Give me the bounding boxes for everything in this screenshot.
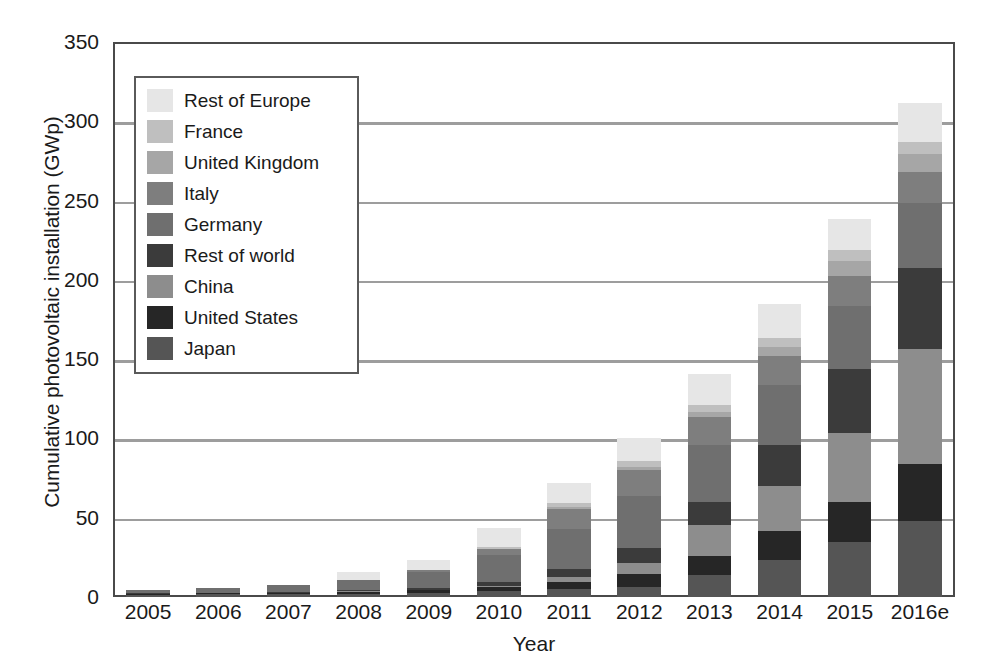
x-axis-tick-label: 2005 <box>125 600 172 624</box>
legend-swatch-icon <box>147 306 173 329</box>
legend-item-label: China <box>184 277 234 296</box>
x-axis-tick-label: 2015 <box>826 600 873 624</box>
legend-swatch-icon <box>147 151 173 174</box>
x-axis-tick-label: 2014 <box>756 600 803 624</box>
y-axis-tick-label: 150 <box>9 347 99 371</box>
y-axis-tick-label: 200 <box>9 268 99 292</box>
x-axis-tick-label: 2011 <box>546 600 591 624</box>
y-axis-tick-label: 300 <box>9 109 99 133</box>
legend-swatch-icon <box>147 182 173 205</box>
legend-item[interactable]: United States <box>147 302 357 333</box>
legend-item-label: United States <box>184 308 298 327</box>
legend-swatch-icon <box>147 275 173 298</box>
legend-item-label: Germany <box>184 215 262 234</box>
legend-swatch-icon <box>147 120 173 143</box>
x-axis-tick-label: 2012 <box>616 600 663 624</box>
legend-item[interactable]: Rest of Europe <box>147 85 357 116</box>
legend-item-label: Japan <box>184 339 236 358</box>
legend-swatch-icon <box>147 244 173 267</box>
y-axis-tick-labels: 050100150200250300350 <box>0 42 113 597</box>
legend-item[interactable]: United Kingdom <box>147 147 357 178</box>
legend-item[interactable]: Japan <box>147 333 357 364</box>
legend-item[interactable]: Italy <box>147 178 357 209</box>
x-axis-tick-label: 2008 <box>335 600 382 624</box>
y-axis-tick-label: 100 <box>9 426 99 450</box>
legend-swatch-icon <box>147 213 173 236</box>
legend-item[interactable]: Germany <box>147 209 357 240</box>
legend-item-label: Italy <box>184 184 219 203</box>
x-axis-tick-label: 2016e <box>891 600 949 624</box>
x-axis-tick-label: 2013 <box>686 600 733 624</box>
gridline <box>115 439 953 442</box>
y-axis-tick-label: 0 <box>9 585 99 609</box>
legend-item[interactable]: Rest of world <box>147 240 357 271</box>
gridline <box>115 519 953 522</box>
legend-swatch-icon <box>147 89 173 112</box>
x-axis-tick-label: 2010 <box>476 600 523 624</box>
legend-item[interactable]: France <box>147 116 357 147</box>
legend-swatch-icon <box>147 337 173 360</box>
legend-item[interactable]: China <box>147 271 357 302</box>
legend-item-label: France <box>184 122 243 141</box>
y-axis-tick-label: 350 <box>9 30 99 54</box>
legend-item-label: United Kingdom <box>184 153 319 172</box>
x-axis-tick-label: 2007 <box>265 600 312 624</box>
y-axis-tick-label: 250 <box>9 189 99 213</box>
x-axis-tick-label: 2006 <box>195 600 242 624</box>
legend-item-label: Rest of Europe <box>184 91 311 110</box>
x-axis-tick-labels: 2005200620072008200920102011201220132014… <box>113 600 955 630</box>
y-axis-tick-label: 50 <box>9 506 99 530</box>
x-axis-title: Year <box>113 632 955 656</box>
chart-root: Cumulative photovoltaic installation (GW… <box>0 0 986 666</box>
chart-legend: Rest of EuropeFranceUnited KingdomItalyG… <box>134 76 359 374</box>
x-axis-tick-label: 2009 <box>405 600 452 624</box>
legend-item-label: Rest of world <box>184 246 295 265</box>
